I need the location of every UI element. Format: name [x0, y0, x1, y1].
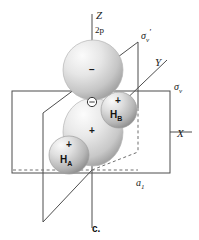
- hydrogen-a-subscript: A: [67, 160, 72, 167]
- axis-label-z: Z: [96, 10, 102, 21]
- hydrogen-a-label: HA: [60, 155, 72, 167]
- sigma-v-prime-subscript: v: [146, 36, 149, 44]
- hydrogen-b-label: HB: [110, 110, 122, 122]
- axis-label-y: Y: [155, 57, 161, 68]
- figure-caption: c.: [92, 224, 100, 234]
- central-atom-marker: [87, 97, 96, 106]
- sigma-v-subscript: v: [179, 87, 182, 95]
- irrep-subscript: 1: [141, 183, 145, 191]
- bottom-lobe-sign: +: [89, 126, 95, 136]
- sigma-v-prime-label: σv′: [141, 31, 151, 44]
- axis-label-x: X: [177, 128, 184, 139]
- orbital-type-label: 2p: [95, 26, 104, 35]
- diagram-canvas: [0, 0, 199, 240]
- hydrogen-b-sign: +: [115, 96, 121, 106]
- hydrogen-a-sign: +: [66, 140, 72, 150]
- irrep-label: a1: [136, 178, 145, 191]
- sigma-v-prime-prime-mark: ′: [149, 27, 151, 37]
- sigma-v-label: σv: [174, 82, 182, 95]
- top-lobe-sign: −: [89, 65, 95, 75]
- molecular-orbital-figure: Z 2p Y X σv′ σv − + + HB + HA a1 c.: [0, 0, 199, 240]
- hydrogen-b-subscript: B: [117, 115, 122, 122]
